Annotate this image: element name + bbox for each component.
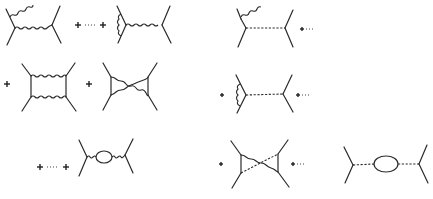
- diagram-vertex-correction-dashed-exchange: [236, 75, 293, 113]
- diagram-bremsstrahlung-dashed-exchange: [237, 7, 293, 47]
- plus-sign: [86, 81, 92, 87]
- plus-sign: [4, 81, 10, 87]
- plus-sign: [100, 22, 106, 28]
- plus-sign: [63, 164, 69, 170]
- plus-sign: [75, 22, 81, 28]
- feynman-diagram-figure: [0, 0, 433, 199]
- diagram-crossed-mixed-box: [231, 140, 289, 188]
- plus-sign: [37, 164, 43, 170]
- plus-sign: [219, 162, 223, 166]
- diagram-vacuum-polarization-dashed-exchange: [344, 145, 428, 183]
- diagram-box: [22, 63, 76, 111]
- plus-sign: [220, 93, 224, 97]
- plus-sign: [300, 27, 304, 31]
- plus-sign: [296, 93, 300, 97]
- diagram-crossed-box: [103, 63, 157, 110]
- diagram-bremsstrahlung-exchange: [6, 5, 61, 45]
- plus-sign: [291, 162, 295, 166]
- diagram-vertex-correction-exchange: [117, 6, 171, 43]
- diagram-vacuum-polarization-exchange: [79, 139, 133, 176]
